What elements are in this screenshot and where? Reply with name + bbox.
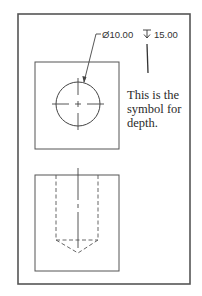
- depth-symbol-icon: [143, 30, 151, 38]
- leader-arrowhead: [82, 76, 86, 83]
- leader-line: [84, 34, 101, 82]
- depth-callout: 15.00: [154, 29, 178, 40]
- depth-pointer-line: [147, 44, 148, 73]
- center-mark: [52, 78, 104, 130]
- annotation-line-1: This is the: [127, 88, 180, 102]
- annotation-line-3: depth.: [127, 116, 158, 130]
- top-view-outline: [35, 62, 119, 149]
- diameter-callout: Ø10.00: [102, 29, 133, 40]
- hidden-hole-lines: [56, 175, 98, 253]
- front-view-outline: [35, 175, 119, 271]
- engineering-drawing: Ø10.00 15.00 This is the symbol for dept…: [0, 0, 202, 296]
- annotation-line-2: symbol for: [127, 102, 182, 116]
